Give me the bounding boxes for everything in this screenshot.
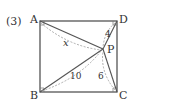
dashed-arc-cp (103, 51, 116, 90)
dashed-arc-ap (41, 23, 101, 50)
segment-label-bp: 10 (70, 71, 82, 81)
point-label-a: A (29, 13, 39, 26)
segment-label-ap: x (63, 37, 69, 48)
segment-ap (40, 21, 103, 49)
segment-label-dp: 4 (105, 29, 111, 39)
segment-label-cp: 6 (98, 71, 104, 81)
point-label-d: D (119, 13, 128, 26)
problem-number: (3) (6, 15, 22, 28)
point-label-p: P (107, 43, 115, 56)
point-label-c: C (119, 89, 127, 102)
square-diagram: (3) A D B C P x 4 10 6 (0, 0, 187, 104)
point-label-b: B (30, 89, 38, 102)
